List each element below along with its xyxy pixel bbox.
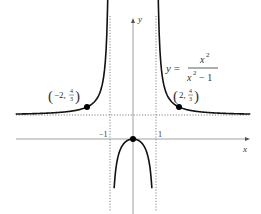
point-label-right-num: 4 (189, 88, 192, 94)
y-axis-label: y (137, 14, 142, 24)
paren-close: ) (194, 88, 199, 105)
paren-close: ) (75, 88, 80, 105)
paren-open: ( (48, 88, 53, 105)
point-label-left-den: 3 (70, 96, 73, 102)
denominator-tail: − 1 (199, 72, 212, 83)
asymptotes (16, 16, 249, 212)
denominator-exponent: 2 (193, 69, 197, 77)
data-point-2 (176, 104, 182, 110)
paren-open: ( (173, 88, 178, 105)
x-axis-label: x (242, 144, 247, 154)
data-point-0 (84, 104, 90, 110)
x-axis-arrow (245, 137, 250, 141)
numerator: x (199, 54, 205, 65)
x-tick-label-1: 1 (158, 130, 162, 139)
point-label-right: ( 2, 4 3 ) (173, 88, 199, 105)
numerator-exponent: 2 (206, 51, 210, 59)
graph: y x −1 1 y = x 2 x 2 − 1 ( −2, 4 3 ) ( 2… (0, 0, 261, 214)
x-tick-label-neg1: −1 (99, 130, 108, 139)
function-label: y = x 2 x 2 − 1 (165, 51, 218, 83)
data-point-1 (130, 136, 136, 142)
axes (16, 18, 250, 214)
point-label-left-main: −2, (54, 90, 66, 100)
point-label-left: ( −2, 4 3 ) (48, 88, 80, 105)
point-label-right-den: 3 (189, 96, 192, 102)
svg-text:y =: y = (165, 62, 180, 74)
denominator: x (186, 72, 192, 83)
y-axis-arrow (131, 18, 135, 23)
point-label-left-num: 4 (70, 88, 73, 94)
point-label-right-main: 2, (179, 90, 186, 100)
